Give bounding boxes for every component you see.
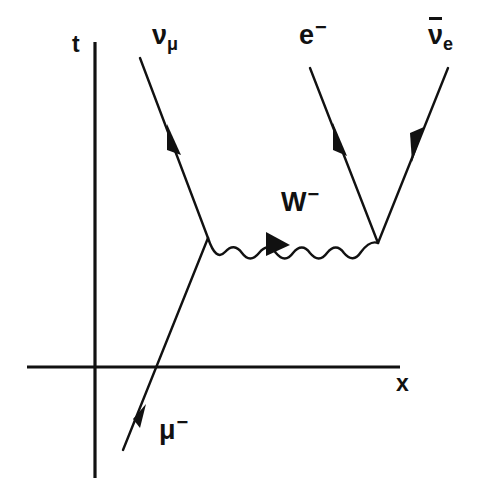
w-boson-charge-superscript: −	[307, 183, 319, 205]
w-boson-arrowhead	[266, 232, 290, 256]
feynman-diagram-canvas: t x νμ e− νe W− μ−	[0, 0, 496, 498]
electron-label: e−	[299, 17, 327, 49]
electron-antineutrino-out-arrowhead	[410, 127, 424, 162]
electron-out-arrowhead	[333, 123, 347, 156]
electron-glyph: e	[299, 20, 314, 50]
muon-label: μ−	[159, 412, 188, 444]
space-axis-label: x	[396, 372, 409, 395]
electron-antineutrino-label: νe	[428, 22, 453, 53]
w-boson-label: W−	[281, 184, 319, 216]
muon-charge-superscript: −	[177, 411, 189, 433]
feynman-diagram-svg	[0, 0, 496, 498]
muon-neutrino-label: νμ	[152, 22, 178, 53]
muon-glyph: μ	[159, 415, 176, 445]
electron-antineutrino-glyph-with-overbar: ν	[428, 22, 443, 49]
electron-out-line	[310, 68, 378, 243]
w-boson-wavy-line	[208, 238, 378, 259]
electron-antineutrino-subscript: e	[443, 34, 453, 54]
muon-neutrino-subscript: μ	[167, 34, 178, 54]
w-boson-glyph: W	[281, 187, 306, 217]
muon-neutrino-glyph: ν	[152, 20, 167, 50]
muon-neutrino-out-arrowhead	[167, 124, 181, 155]
electron-antineutrino-glyph: ν	[428, 20, 443, 50]
time-axis-label: t	[72, 33, 80, 56]
electron-charge-superscript: −	[315, 16, 327, 38]
